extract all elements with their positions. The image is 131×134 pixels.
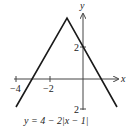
x-tick-label-minus2: −2 bbox=[43, 83, 54, 94]
function-graph: x y −4 −2 2 2 y = 4 − 2|x − 1| bbox=[0, 0, 131, 134]
y-tick-label-2: 2 bbox=[74, 42, 79, 53]
x-tick-label-minus4: −4 bbox=[10, 83, 21, 94]
y-axis-label: y bbox=[79, 0, 85, 11]
function-line bbox=[16, 18, 117, 107]
x-axis-label: x bbox=[120, 73, 126, 84]
equation-label: y = 4 − 2|x − 1| bbox=[23, 115, 89, 126]
y-tick-label-minus2: 2 bbox=[74, 104, 79, 115]
